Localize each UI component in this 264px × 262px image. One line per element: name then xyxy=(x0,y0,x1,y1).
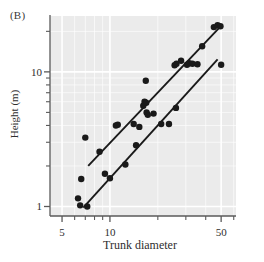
data-point xyxy=(184,62,190,68)
data-point xyxy=(166,121,172,127)
data-point xyxy=(122,161,128,167)
x-tick-label: 10 xyxy=(104,226,115,238)
data-point xyxy=(130,121,136,127)
y-tick-label: 10 xyxy=(18,66,42,78)
data-point xyxy=(143,100,149,106)
scatter-plot-canvas xyxy=(0,0,264,262)
data-point xyxy=(82,134,88,140)
data-point xyxy=(173,105,179,111)
data-point xyxy=(75,195,81,201)
data-point xyxy=(199,43,205,49)
data-point xyxy=(102,171,108,177)
x-tick-label: 50 xyxy=(216,226,227,238)
data-point xyxy=(143,77,149,83)
data-point xyxy=(143,109,149,115)
plot-background-group xyxy=(50,16,236,216)
data-point xyxy=(158,121,164,127)
y-axis-title: Height (m) xyxy=(8,69,20,159)
data-point xyxy=(107,175,113,181)
panel-label: (B) xyxy=(10,9,25,21)
data-point xyxy=(96,149,102,155)
data-point xyxy=(178,58,184,64)
data-point xyxy=(218,62,224,68)
data-point xyxy=(77,202,83,208)
data-point xyxy=(136,124,142,130)
data-point xyxy=(133,142,139,148)
data-point xyxy=(78,176,84,182)
data-point xyxy=(84,203,90,209)
data-point xyxy=(217,23,223,29)
x-axis-title: Trunk diameter xyxy=(50,238,230,253)
data-point xyxy=(150,110,156,116)
data-point xyxy=(115,122,121,128)
plot-background xyxy=(50,16,236,216)
data-point xyxy=(194,61,200,67)
figure-panel-b: (B) Height (m) Trunk diameter 51050110 xyxy=(0,0,264,262)
y-tick-label: 1 xyxy=(18,200,42,212)
x-tick-label: 5 xyxy=(59,226,65,238)
